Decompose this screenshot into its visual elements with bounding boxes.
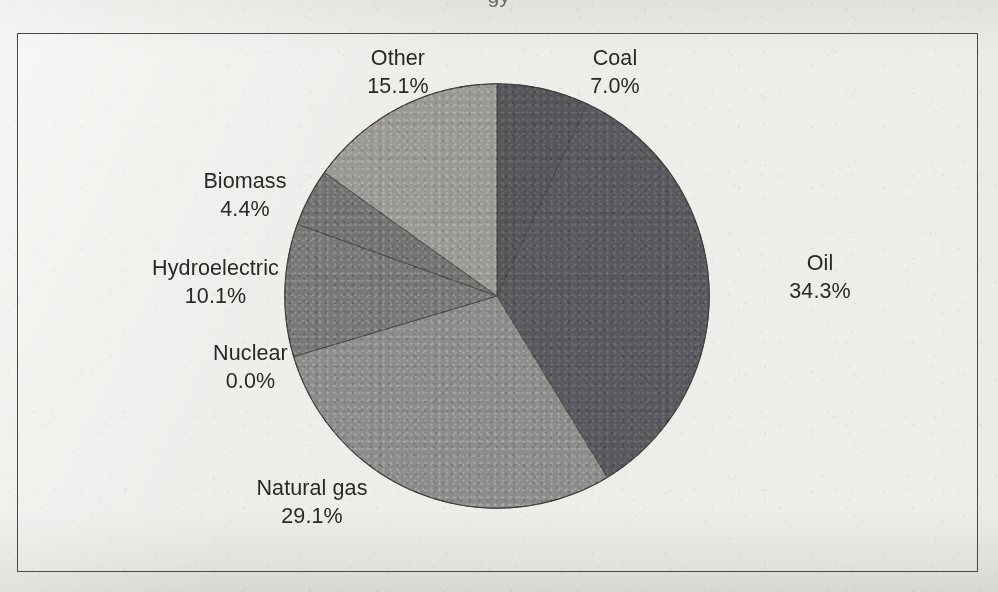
pie-label-natural-gas: Natural gas 29.1% (212, 475, 412, 531)
pie-svg (284, 83, 710, 509)
pie-chart (284, 83, 710, 509)
pie-label-hydroelectric: Hydroelectric 10.1% (108, 255, 323, 311)
pie-label-biomass: Biomass 4.4% (160, 168, 330, 224)
pie-label-other: Other 15.1% (318, 45, 478, 101)
pie-label-coal: Coal 7.0% (545, 45, 685, 101)
pie-label-nuclear-name: Nuclear (163, 340, 338, 368)
pie-label-hydroelectric-value: 10.1% (108, 283, 323, 311)
pie-label-coal-value: 7.0% (545, 73, 685, 101)
pie-label-natural-gas-value: 29.1% (212, 503, 412, 531)
screenshot-root: gy Other 15.1% Coal 7.0% Oil 34.3% Bioma… (0, 0, 998, 592)
pie-label-hydroelectric-name: Hydroelectric (108, 255, 323, 283)
cropped-title-remnant: gy (0, 0, 998, 8)
pie-label-oil: Oil 34.3% (745, 250, 895, 306)
pie-label-biomass-value: 4.4% (160, 196, 330, 224)
pie-slice-group (285, 84, 709, 508)
pie-label-nuclear: Nuclear 0.0% (163, 340, 338, 396)
pie-label-coal-name: Coal (545, 45, 685, 73)
pie-label-other-value: 15.1% (318, 73, 478, 101)
pie-label-other-name: Other (318, 45, 478, 73)
pie-label-oil-value: 34.3% (745, 278, 895, 306)
pie-label-natural-gas-name: Natural gas (212, 475, 412, 503)
pie-label-nuclear-value: 0.0% (163, 368, 338, 396)
pie-label-biomass-name: Biomass (160, 168, 330, 196)
pie-label-oil-name: Oil (745, 250, 895, 278)
